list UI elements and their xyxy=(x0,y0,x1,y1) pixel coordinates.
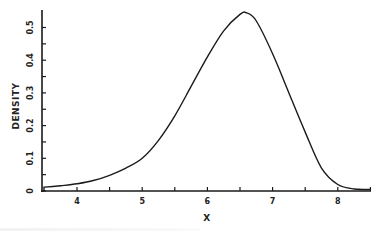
density-curve xyxy=(44,12,370,191)
x-tick-label: 7 xyxy=(270,197,276,206)
y-axis-title: DENSITY xyxy=(11,82,21,129)
clipped-caption-remnant xyxy=(0,228,200,231)
x-tick-label: 8 xyxy=(335,197,341,206)
x-axis-title: X xyxy=(203,213,210,223)
y-tick-label: 0.1 xyxy=(26,151,35,166)
x-axis: 45678 xyxy=(41,187,371,206)
density-chart: 00.10.20.30.40.5 45678 DENSITY X xyxy=(0,0,387,234)
y-tick-label: 0 xyxy=(26,188,35,194)
x-tick-label: 6 xyxy=(205,197,211,206)
x-tick-label: 4 xyxy=(74,197,80,206)
y-tick-label: 0.4 xyxy=(26,53,35,68)
x-tick-label: 5 xyxy=(139,197,145,206)
y-tick-label: 0.3 xyxy=(26,86,35,100)
y-tick-label: 0.2 xyxy=(26,119,35,133)
y-axis: 00.10.20.30.40.5 xyxy=(26,10,46,194)
y-tick-label: 0.5 xyxy=(26,20,35,35)
